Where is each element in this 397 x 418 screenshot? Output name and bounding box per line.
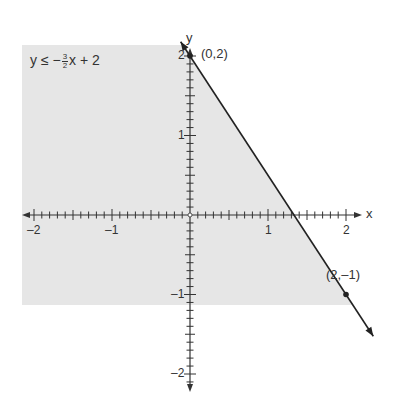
y-tick-label: –1	[171, 287, 184, 301]
inequality-label: y ≤ −32x + 2	[30, 52, 100, 70]
x-axis-right-arrow	[354, 212, 362, 218]
x-tick-label: 1	[265, 223, 272, 237]
x-tick-label: 2	[343, 223, 350, 237]
x-tick-label: –1	[105, 223, 118, 237]
ineq-rest: x + 2	[69, 52, 100, 68]
ineq-lhs: y	[30, 52, 37, 68]
y-axis-label: y	[186, 30, 193, 45]
point-label-0-2: (0,2)	[201, 46, 228, 61]
ineq-sign: −	[52, 52, 60, 68]
origin-marker	[188, 213, 192, 217]
data-point	[187, 53, 193, 59]
ineq-op: ≤	[41, 52, 49, 68]
y-tick-label: 1	[178, 128, 185, 142]
x-axis-label: x	[366, 206, 373, 221]
data-point	[343, 292, 349, 298]
point-label-2-neg1: (2,–1)	[326, 267, 360, 282]
frac-den: 2	[62, 62, 68, 70]
line-arrow-end	[365, 327, 373, 336]
y-axis-down-arrow	[187, 384, 193, 392]
y-tick-label: 2	[178, 48, 185, 62]
ineq-fraction: 32	[62, 53, 68, 70]
x-tick-label: –2	[27, 223, 40, 237]
y-tick-label: –2	[171, 366, 184, 380]
